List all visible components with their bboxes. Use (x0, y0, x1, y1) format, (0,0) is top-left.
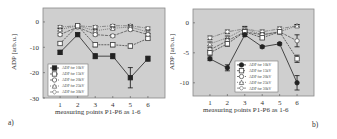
data-point-marker (146, 36, 150, 40)
data-point-marker (111, 43, 115, 47)
y-tick-label: -30 (30, 95, 40, 103)
data-point-marker (93, 54, 97, 58)
legend-entry-label: ADP for 20kV (62, 78, 84, 82)
chart-b-xlabel: measuring points P1-P6 as 1-6 (203, 106, 289, 114)
data-point-marker (58, 32, 62, 36)
y-tick-label: -10 (30, 44, 40, 52)
chart-a-xlabel: measuring points P1-P6 as 1-6 (55, 108, 141, 116)
legend-entry-label: ADP for 15kV (249, 69, 271, 73)
y-tick-label: -20 (30, 69, 40, 77)
y-axis-label: ADP [arb.u.] (10, 34, 18, 70)
y-tick-label: -5 (183, 49, 189, 57)
data-point-marker (225, 66, 229, 70)
data-point-marker (146, 57, 150, 61)
chart-panel-a: 0-10-20-30123456ADP [arb.u.]ADP for 10kV… (0, 0, 170, 139)
chart-b-panel-label: b) (312, 120, 318, 129)
data-point-marker (93, 43, 97, 47)
legend-entry-label: ADP for 30kV (62, 90, 84, 94)
chart-panel-b: 0-5-10123456ADP [arb.u.]ADP for 10kVADP … (170, 0, 337, 139)
y-axis-label: ADP [arb.u.] (170, 34, 176, 70)
data-point-marker (239, 63, 243, 67)
chart-a-plot: 0-10-20-30123456ADP [arb.u.]ADP for 10kV… (0, 0, 170, 139)
data-point-marker (225, 42, 229, 46)
data-point-marker (295, 57, 299, 61)
chart-b-plot: 0-5-10123456ADP [arb.u.]ADP for 10kVADP … (170, 0, 337, 139)
data-point-marker (243, 33, 247, 37)
data-point-marker (111, 54, 115, 58)
data-point-marker (277, 42, 281, 46)
legend-entry-label: ADP for 25kV (249, 81, 271, 85)
legend-entry-label: ADP for 20kV (249, 75, 271, 79)
data-point-marker (111, 34, 115, 38)
data-point-marker (260, 36, 264, 40)
data-point-marker (208, 51, 212, 55)
data-point-marker (52, 66, 56, 70)
legend-entry-label: ADP for 10kV (62, 66, 84, 70)
y-tick-label: 0 (186, 19, 190, 27)
data-point-marker (239, 74, 243, 78)
data-point-marker (128, 27, 132, 31)
data-point-marker (75, 24, 79, 28)
data-point-marker (52, 78, 56, 82)
data-point-marker (52, 72, 56, 76)
chart-legend: ADP for 10kVADP for 15kVADP for 20kVADP … (235, 61, 278, 92)
data-point-marker (295, 39, 299, 43)
data-point-marker (260, 45, 264, 49)
data-point-marker (128, 76, 132, 80)
data-point-marker (239, 69, 243, 73)
y-tick-label: -10 (180, 79, 190, 87)
data-point-marker (208, 57, 212, 61)
legend-entry-label: ADP for 10kV (249, 63, 271, 67)
data-point-marker (128, 44, 132, 48)
data-point-marker (277, 30, 281, 34)
y-tick-label: 0 (36, 18, 40, 26)
data-point-marker (58, 50, 62, 54)
data-point-marker (75, 32, 79, 36)
x-tick-label: 6 (295, 99, 299, 107)
data-point-marker (58, 41, 62, 45)
data-point-marker (93, 32, 97, 36)
data-point-marker (295, 81, 299, 85)
chart-legend: ADP for 10kVADP for 15kVADP for 20kVADP … (48, 64, 88, 96)
legend-entry-label: ADP for 15kV (62, 72, 84, 76)
x-tick-label: 6 (146, 101, 150, 109)
legend-entry-label: ADP for 25kV (62, 84, 84, 88)
legend-entry-label: ADP for 30kV (249, 87, 271, 91)
chart-a-panel-label: a) (8, 118, 14, 127)
